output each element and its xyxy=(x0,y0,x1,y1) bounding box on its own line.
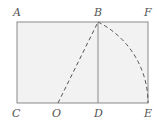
label-b: B xyxy=(93,6,102,19)
label-f: F xyxy=(143,6,152,19)
label-d: D xyxy=(93,107,103,120)
label-o: O xyxy=(52,107,61,120)
golden-rectangle-diagram: A B F C O D E xyxy=(0,0,157,124)
label-e: E xyxy=(143,107,152,120)
label-a: A xyxy=(12,6,21,19)
outer-rectangle xyxy=(17,22,148,103)
label-c: C xyxy=(12,107,21,120)
